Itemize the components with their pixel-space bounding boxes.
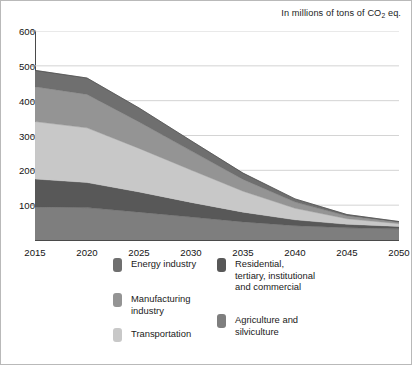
legend-item[interactable]: Manufacturing industry <box>113 293 190 316</box>
legend-item-label: Residential, tertiary, institutional and… <box>235 258 315 293</box>
caption-subscript: 2 <box>381 12 385 19</box>
y-axis: 600500400300200100 <box>1 1 35 261</box>
legend-swatch-icon <box>113 293 122 307</box>
caption-suffix: eq. <box>385 8 401 18</box>
chart-legend: Energy industryManufacturing industryTra… <box>113 256 405 360</box>
legend-swatch-icon <box>217 258 226 272</box>
legend-item-label: Transportation <box>131 328 191 340</box>
legend-item[interactable]: Residential, tertiary, institutional and… <box>217 258 315 293</box>
legend-item-label: Manufacturing industry <box>131 293 190 316</box>
legend-swatch-icon <box>113 328 122 342</box>
x-axis-line <box>35 240 399 241</box>
chart-figure: In millions of tons of CO2 eq. 600500400… <box>0 0 412 365</box>
legend-item[interactable]: Energy industry <box>113 258 196 272</box>
plot-area <box>35 31 399 240</box>
x-tick-label: 2015 <box>24 247 45 258</box>
legend-item-label: Agriculture and silviculture <box>235 314 298 337</box>
legend-swatch-icon <box>113 258 122 272</box>
legend-item[interactable]: Agriculture and silviculture <box>217 314 298 337</box>
legend-swatch-icon <box>217 314 226 328</box>
legend-item[interactable]: Transportation <box>113 328 191 342</box>
chart-unit-caption: In millions of tons of CO2 eq. <box>281 8 401 18</box>
caption-prefix: In millions of tons of CO <box>281 8 381 18</box>
stacked-area-svg <box>35 31 399 240</box>
x-tick-label: 2020 <box>76 247 97 258</box>
legend-item-label: Energy industry <box>131 258 196 270</box>
area-series-group <box>35 70 399 240</box>
